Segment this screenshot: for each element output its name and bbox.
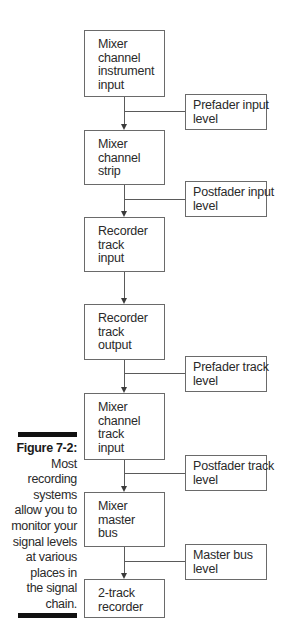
monitor-label-line: level	[193, 375, 266, 389]
figure-caption: Figure 7-2: Most recording systems allow…	[0, 441, 77, 613]
monitor-label-line: Prefader input	[193, 99, 266, 113]
caption-line: Most	[0, 457, 77, 473]
node-label-line: Recorder	[98, 225, 164, 239]
node-label-line: Recorder	[98, 312, 164, 326]
node-mixer-channel-instrument-input: Mixer channel instrument input	[84, 30, 165, 97]
figure-label: Figure 7-2:	[0, 441, 77, 457]
node-label-line: track	[98, 239, 164, 253]
node-recorder-track-input: Recorder track input	[84, 217, 165, 272]
branch-prefader-track	[124, 373, 185, 374]
node-label-line: Mixer	[98, 401, 164, 415]
monitor-prefader-track-level: Prefader track level	[185, 356, 267, 392]
caption-line: signal levels	[0, 535, 77, 551]
caption-line: chain.	[0, 597, 77, 613]
node-label-line: instrument	[98, 65, 164, 79]
monitor-postfader-input-level: Postfader input level	[185, 181, 267, 217]
monitor-postfader-track-level: Postfader track level	[185, 455, 267, 491]
caption-line: the signal	[0, 581, 77, 597]
monitor-label-line: Master bus	[193, 549, 266, 563]
connector-3-4	[124, 271, 125, 298]
node-label-line: channel	[98, 152, 164, 166]
node-label-line: track	[98, 326, 164, 340]
caption-line: allow you to	[0, 503, 77, 519]
node-two-track-recorder: 2-track recorder	[84, 579, 165, 618]
caption-line: recording	[0, 472, 77, 488]
monitor-label-line: level	[193, 200, 266, 214]
monitor-label-line: level	[193, 113, 266, 127]
monitor-label-line: Postfader track	[193, 460, 266, 474]
branch-master-bus	[124, 561, 185, 562]
node-label-line: output	[98, 339, 164, 353]
monitor-label-line: Postfader input	[193, 186, 266, 200]
caption-line: monitor your	[0, 519, 77, 535]
node-label-line: channel	[98, 415, 164, 429]
branch-prefader-input	[124, 111, 185, 112]
monitor-label-line: Prefader track	[193, 361, 266, 375]
node-label-line: recorder	[98, 601, 164, 615]
node-label-line: channel	[98, 52, 164, 66]
node-label-line: strip	[98, 165, 164, 179]
branch-postfader-track	[124, 473, 185, 474]
node-label-line: input	[98, 442, 164, 456]
node-mixer-channel-track-input: Mixer channel track input	[84, 393, 165, 460]
connector-6-7	[124, 546, 125, 573]
node-label-line: 2-track	[98, 587, 164, 601]
monitor-label-line: level	[193, 563, 266, 577]
branch-postfader-input	[124, 199, 185, 200]
caption-line: places in	[0, 566, 77, 582]
caption-line: at various	[0, 550, 77, 566]
node-label-line: Mixer	[98, 38, 164, 52]
node-label-line: Mixer	[98, 138, 164, 152]
node-mixer-channel-strip: Mixer channel strip	[84, 130, 165, 185]
monitor-label-line: level	[193, 474, 266, 488]
node-label-line: bus	[98, 527, 164, 541]
node-label-line: track	[98, 428, 164, 442]
node-mixer-master-bus: Mixer master bus	[84, 492, 165, 547]
node-label-line: input	[98, 79, 164, 93]
connector-2-3	[124, 184, 125, 211]
node-label-line: master	[98, 514, 164, 528]
caption-line: systems	[0, 488, 77, 504]
caption-top-rule	[18, 432, 77, 437]
monitor-master-bus-level: Master bus level	[185, 544, 267, 580]
node-label-line: Mixer	[98, 500, 164, 514]
node-recorder-track-output: Recorder track output	[84, 304, 165, 360]
connector-1-2	[124, 96, 125, 124]
caption-bottom-rule	[18, 613, 77, 618]
monitor-prefader-input-level: Prefader input level	[185, 94, 267, 130]
node-label-line: input	[98, 252, 164, 266]
